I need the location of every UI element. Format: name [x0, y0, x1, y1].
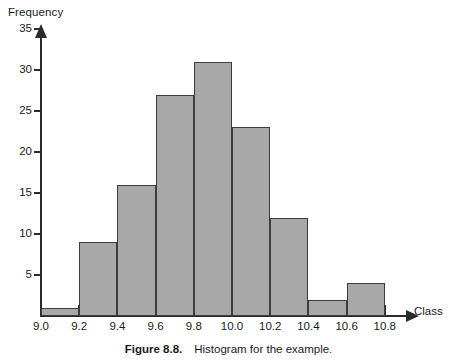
y-tick-label: 10: [2, 228, 32, 240]
y-tick-mark: [34, 151, 40, 153]
histogram-bar: [308, 300, 346, 316]
figure-caption: Figure 8.8.Histogram for the example.: [0, 343, 457, 355]
histogram-bar: [79, 242, 117, 316]
y-tick-mark: [34, 274, 40, 276]
y-tick-label: 35: [2, 23, 32, 35]
x-tick-label: 9.8: [174, 320, 214, 332]
x-tick-label: 10.6: [327, 320, 367, 332]
x-tick-label: 10.4: [288, 320, 328, 332]
y-tick-label: 5: [2, 269, 32, 281]
histogram-plot: Frequency Class 5101520253035 9.09.29.49…: [0, 0, 457, 340]
histogram-bar: [41, 308, 79, 316]
figure-container: Frequency Class 5101520253035 9.09.29.49…: [0, 0, 457, 364]
x-tick-label: 9.6: [136, 320, 176, 332]
x-tick-label: 9.0: [21, 320, 61, 332]
x-tick-label: 9.2: [59, 320, 99, 332]
y-tick-label: 25: [2, 105, 32, 117]
histogram-bar: [270, 218, 308, 316]
y-tick-label: 20: [2, 146, 32, 158]
histogram-bar: [232, 127, 270, 316]
figure-caption-text: Histogram for the example.: [194, 343, 332, 355]
histogram-bar: [347, 283, 385, 316]
y-tick-mark: [34, 110, 40, 112]
y-tick-mark: [34, 192, 40, 194]
x-tick-label: 10.8: [365, 320, 405, 332]
y-tick-label: 15: [2, 187, 32, 199]
histogram-bar: [117, 185, 155, 316]
figure-number: Figure 8.8.: [125, 343, 183, 355]
x-tick-label: 9.4: [97, 320, 137, 332]
x-tick-label: 10.2: [250, 320, 290, 332]
y-tick-mark: [34, 233, 40, 235]
y-axis-line: [40, 36, 42, 317]
y-axis-label: Frequency: [8, 6, 63, 18]
histogram-bar: [194, 62, 232, 316]
y-tick-mark: [34, 69, 40, 71]
histogram-bar: [156, 95, 194, 316]
x-tick-label: 10.0: [212, 320, 252, 332]
y-tick-label: 30: [2, 64, 32, 76]
y-axis-arrow-icon: [35, 24, 47, 38]
x-axis-arrow-icon: [406, 310, 419, 322]
y-tick-mark: [34, 28, 40, 30]
